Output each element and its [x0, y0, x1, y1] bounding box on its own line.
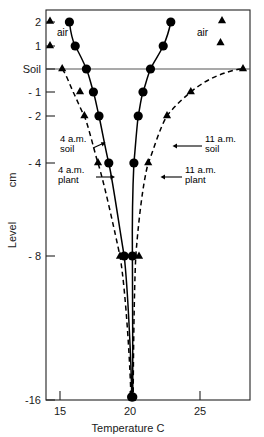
data-point	[144, 158, 152, 165]
air-label-left: air	[57, 27, 69, 38]
curve-4am-plant	[69, 22, 131, 400]
data-point	[128, 251, 137, 260]
y-tick-label-1: 1	[35, 40, 41, 52]
data-point	[218, 16, 226, 23]
annotation-4am-plant: 4 a.m. plant	[58, 164, 115, 185]
temperature-profile-chart: 2 1 Soil - 1 - 2 - 4 - 8 -16 15 20 25 Te…	[0, 0, 264, 437]
annotation-4am-plant-line2: plant	[58, 174, 79, 185]
data-point	[146, 64, 155, 73]
data-point	[163, 111, 171, 118]
chart-canvas: 2 1 Soil - 1 - 2 - 4 - 8 -16 15 20 25 Te…	[0, 0, 264, 437]
y-axis-tick-labels: 2 1 Soil - 1 - 2 - 4 - 8 -16	[23, 16, 41, 406]
annotation-11am-plant-line2: plant	[185, 174, 206, 185]
y-tick-label-m2: - 2	[28, 110, 41, 122]
data-point	[129, 158, 138, 167]
y-tick-label-m16: -16	[25, 394, 41, 406]
arrow-head	[111, 175, 116, 180]
markers-11am-plant	[128, 17, 176, 401]
data-point	[71, 41, 80, 50]
data-point	[216, 38, 224, 45]
arrow-head	[173, 144, 178, 149]
y-tick-label-m4: - 4	[28, 157, 41, 169]
data-point	[166, 17, 175, 26]
data-point	[94, 158, 102, 165]
markers-4am-plant	[65, 17, 136, 401]
x-axis-tick-labels: 15 20 25	[54, 405, 206, 417]
y-tick-label-m8: - 8	[28, 250, 41, 262]
annotation-11am-plant: 11 a.m. plant	[161, 164, 216, 185]
data-point	[128, 392, 137, 401]
data-point	[46, 17, 54, 24]
data-point	[46, 41, 54, 48]
air-label-right: air	[197, 27, 209, 38]
data-point	[58, 64, 66, 71]
annotation-4am-soil: 4 a.m. soil	[60, 133, 106, 154]
x-tick-label-20: 20	[124, 405, 136, 417]
data-point	[134, 111, 143, 120]
data-point	[76, 87, 84, 94]
arrow-head	[161, 175, 166, 180]
x-tick-label-15: 15	[54, 405, 66, 417]
markers-air-right	[216, 16, 226, 45]
annotation-4am-soil-line2: soil	[60, 143, 74, 154]
annotation-11am-soil-line2: soil	[205, 143, 219, 154]
data-point	[89, 87, 98, 96]
data-point	[94, 111, 103, 120]
data-point	[239, 64, 247, 71]
data-point	[104, 158, 113, 167]
x-axis-title: Temperature C	[92, 422, 165, 434]
data-point	[82, 64, 91, 73]
data-point	[65, 17, 74, 26]
y-axis-title-level: Level	[6, 222, 18, 248]
curve-11am-soil	[133, 69, 241, 400]
y-tick-label-m1: - 1	[28, 86, 41, 98]
y-tick-label-soil: Soil	[23, 63, 41, 75]
annotation-11am-soil: 11 a.m. soil	[173, 133, 236, 154]
y-axis-ticks	[46, 22, 55, 400]
curve-11am-plant	[132, 22, 170, 400]
data-point	[138, 87, 147, 96]
y-axis-title-cm: cm	[6, 173, 18, 188]
y-tick-label-2: 2	[35, 16, 41, 28]
markers-11am-soil	[135, 64, 247, 259]
markers-air-left	[46, 17, 54, 49]
data-point	[159, 41, 168, 50]
x-tick-label-25: 25	[194, 405, 206, 417]
